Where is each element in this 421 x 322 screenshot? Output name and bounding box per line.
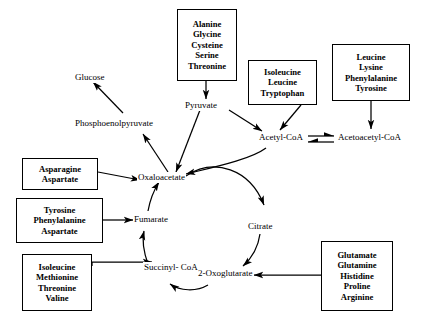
- arrow-oxaloacetate-to-pep: [143, 134, 168, 172]
- aa-aspartate: Aspartate: [41, 226, 77, 236]
- arrow-pyruvate-to-acetylcoa: [229, 110, 262, 131]
- box-fumarate-amino-acids: Tyrosine Phenylalanine Aspartate: [16, 198, 103, 243]
- aa-glutamine: Glutamine: [337, 260, 376, 270]
- aa-glutamate: Glutamate: [337, 250, 376, 260]
- aa-threonine: Threonine: [38, 283, 76, 293]
- aa-leucine: Leucine: [356, 52, 385, 62]
- node-oxaloacetate: Oxaloacetate: [137, 172, 186, 183]
- aa-proline: Proline: [344, 281, 371, 291]
- aa-isoleucine: Isoleucine: [264, 67, 301, 77]
- aa-aspartate: Aspartate: [42, 174, 78, 184]
- arrow-pep-to-glucose: [93, 82, 123, 113]
- succinyl-coa-line-1: Succinyl-: [144, 262, 179, 272]
- box-acetylcoa-amino-acids: Isoleucine Leucine Tryptophan: [248, 60, 317, 105]
- aa-asparagine: Asparagine: [39, 164, 81, 174]
- node-citrate: Citrate: [247, 221, 274, 232]
- aa-valine: Valine: [45, 293, 68, 303]
- aa-cysteine: Cysteine: [191, 40, 223, 50]
- node-fumarate: Fumarate: [133, 214, 169, 225]
- aa-serine: Serine: [195, 50, 218, 60]
- arrow-oxaloacetate-to-citrate: [186, 167, 264, 205]
- aa-alanine: Alanine: [193, 19, 222, 29]
- aa-phenylalanine: Phenylalanine: [345, 73, 397, 83]
- box-oxaloacetate-amino-acids: Asparagine Aspartate: [22, 158, 98, 190]
- node-pyruvate: Pyruvate: [184, 100, 218, 111]
- arrow-aabox-to-oxaloacetate: [98, 172, 140, 180]
- aa-lysine: Lysine: [359, 62, 383, 72]
- box-oxoglutarate-amino-acids: Glutamate Glutamine Histidine Proline Ar…: [321, 241, 393, 311]
- aa-phenylalanine: Phenylalanine: [33, 215, 85, 225]
- box-succinylcoa-amino-acids: Isoleucine Methionine Threonine Valine: [22, 254, 92, 311]
- aa-methionine: Methionine: [36, 272, 78, 282]
- aa-tryptophan: Tryptophan: [261, 88, 305, 98]
- box-acetoacetylcoa-amino-acids: Leucine Lysine Phenylalanine Tyrosine: [332, 44, 410, 101]
- box-pyruvate-amino-acids: Alanine Glycine Cysteine Serine Threonin…: [177, 9, 237, 81]
- aa-tyrosine: Tyrosine: [44, 205, 76, 215]
- node-2-oxoglutarate: 2-Oxoglutarate: [197, 268, 253, 279]
- arrow-pyruvate-to-oxaloacetate: [176, 110, 200, 172]
- aa-threonine: Threonine: [188, 61, 226, 71]
- node-acetoacetyl-coa: Acetoacetyl-CoA: [337, 132, 402, 143]
- aa-isoleucine: Isoleucine: [39, 262, 76, 272]
- aa-glycine: Glycine: [193, 29, 221, 39]
- arrow-oxoglutarate-to-succinylcoa: [170, 284, 208, 290]
- succinyl-coa-line-2: CoA: [181, 262, 198, 272]
- node-succinyl-coa: Succinyl- CoA: [143, 262, 189, 273]
- node-glucose: Glucose: [74, 72, 106, 83]
- node-phosphoenolpyruvate: Phosphoenolpyruvate: [74, 118, 154, 129]
- aa-leucine: Leucine: [268, 77, 297, 87]
- aa-histidine: Histidine: [340, 271, 373, 281]
- metabolic-pathway-diagram: Glucose Phosphoenolpyruvate Pyruvate Ace…: [0, 0, 421, 322]
- arrow-fumarate-to-oxaloacetate: [148, 182, 159, 211]
- arrow-succinylcoa-to-fumarate: [143, 231, 148, 264]
- arrow-citrate-to-oxoglutarate: [243, 234, 260, 266]
- aa-tyrosine: Tyrosine: [355, 83, 387, 93]
- aa-arginine: Arginine: [341, 292, 373, 302]
- node-acetyl-coa: Acetyl-CoA: [258, 132, 304, 143]
- arrow-aabox-to-acetylcoa: [280, 105, 301, 130]
